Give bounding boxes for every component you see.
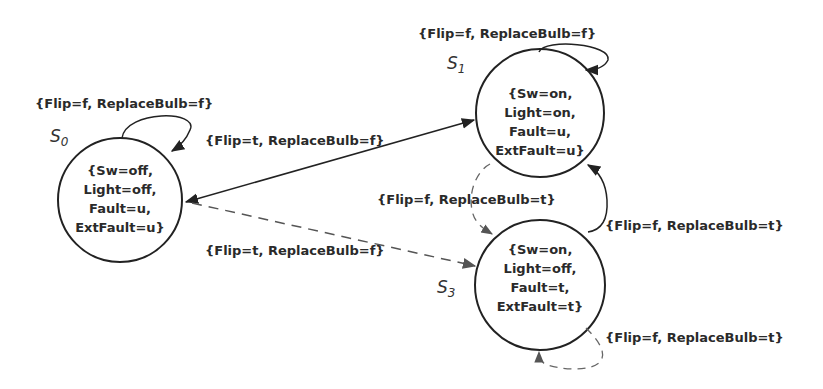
state-s3-line-2: Light=off, — [504, 261, 577, 276]
state-s1: {Sw=on, Light=on, Fault=u, ExtFault=u} S… — [447, 49, 604, 177]
state-s1-line-2: Light=on, — [504, 105, 576, 120]
state-s3-line-4: ExtFault=t} — [497, 299, 584, 314]
state-s0-line-1: {Sw=off, — [87, 163, 153, 178]
state-s1-line-1: {Sw=on, — [508, 86, 573, 101]
transition-s0-s1: {Flip=t, ReplaceBulb=f} — [186, 120, 474, 202]
state-s3-name: S3 — [437, 277, 455, 300]
transition-s0-self-arrow — [122, 116, 191, 151]
transition-s1-s3-label: {Flip=f, ReplaceBulb=t} — [377, 192, 556, 207]
transition-s0-s3-label: {Flip=t, ReplaceBulb=f} — [205, 243, 385, 258]
transition-s1-self-arrow — [539, 44, 608, 70]
state-s3-line-3: Fault=t, — [511, 280, 570, 295]
state-s0-circle — [58, 138, 182, 262]
transition-s3-s1-label: {Flip=f, ReplaceBulb=t} — [605, 218, 784, 233]
state-s0: {Sw=off, Light=off, Fault=u, ExtFault=u}… — [50, 126, 182, 262]
state-s1-line-3: Fault=u, — [509, 124, 571, 139]
transition-s0-s1-label: {Flip=t, ReplaceBulb=f} — [205, 133, 385, 148]
state-s1-name: S1 — [447, 53, 465, 76]
transition-s3-self-label: {Flip=f, ReplaceBulb=t} — [605, 330, 784, 345]
state-s3: {Sw=on, Light=off, Fault=t, ExtFault=t} … — [437, 220, 605, 350]
state-s0-name: S0 — [50, 126, 69, 149]
state-s0-line-4: ExtFault=u} — [75, 220, 165, 235]
transition-s3-s1: {Flip=f, ReplaceBulb=t} — [588, 165, 784, 233]
transition-s1-self-label: {Flip=f, ReplaceBulb=f} — [418, 26, 596, 41]
transition-s1-s3: {Flip=f, ReplaceBulb=t} — [377, 164, 556, 234]
transition-s0-s3: {Flip=t, ReplaceBulb=f} — [192, 203, 475, 266]
state-s0-line-3: Fault=u, — [89, 201, 151, 216]
state-s1-line-4: ExtFault=u} — [495, 143, 585, 158]
state-s3-line-1: {Sw=on, — [508, 242, 573, 257]
transition-s0-self-label: {Flip=f, ReplaceBulb=f} — [35, 96, 213, 111]
state-s0-line-2: Light=off, — [84, 182, 157, 197]
state-diagram: {Sw=off, Light=off, Fault=u, ExtFault=u}… — [0, 0, 823, 389]
transition-s3-self: {Flip=f, ReplaceBulb=t} — [539, 328, 784, 369]
